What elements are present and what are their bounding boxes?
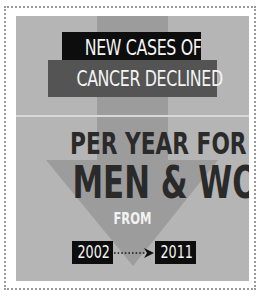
headline-line-4: MEN & WOMEN [72, 160, 249, 206]
headline-line-3-row: PER YEAR FOR BOTH [16, 127, 249, 159]
headline-line-2: CANCER DECLINED [76, 60, 222, 97]
end-year: 2011 [160, 241, 192, 264]
headline-line-1: NEW CASES OF [85, 32, 202, 63]
headline-line-2-box: CANCER DECLINED [48, 60, 217, 97]
horizontal-divider [16, 115, 249, 117]
dotted-right-arrow-icon [113, 246, 155, 260]
headline-line-4-row: MEN & WOMEN [16, 160, 249, 206]
end-year-box: 2011 [155, 241, 196, 264]
from-label-row: FROM [16, 210, 249, 228]
start-year: 2002 [77, 241, 109, 264]
infographic-panel: NEW CASES OF CANCER DECLINED PER YEAR FO… [16, 16, 249, 281]
headline-line-3: PER YEAR FOR BOTH [70, 127, 249, 159]
headline-line-1-box: NEW CASES OF [62, 32, 201, 63]
start-year-box: 2002 [72, 241, 113, 264]
from-label: FROM [113, 210, 151, 228]
